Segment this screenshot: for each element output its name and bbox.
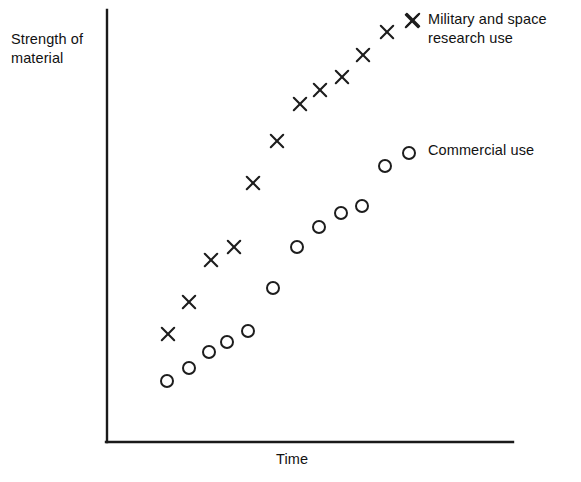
series-commercial-markers xyxy=(161,147,415,387)
data-point-o-8 xyxy=(335,207,347,219)
y-axis-label: Strength of material xyxy=(11,30,111,68)
data-point-x-7 xyxy=(314,84,326,96)
data-point-x-0 xyxy=(162,328,174,340)
data-point-x-1 xyxy=(183,296,195,308)
data-point-o-4 xyxy=(242,325,254,337)
data-point-x-4 xyxy=(247,177,259,189)
data-point-o-7 xyxy=(313,221,325,233)
data-point-x-3 xyxy=(228,241,240,253)
data-point-x-10 xyxy=(381,26,393,38)
data-point-x-5 xyxy=(271,135,283,147)
legend-label-commercial: Commercial use xyxy=(428,141,578,160)
legend-marker-group xyxy=(407,14,419,26)
data-point-x-6 xyxy=(294,98,306,110)
data-point-o-10 xyxy=(379,160,391,172)
data-point-o-2 xyxy=(203,346,215,358)
data-point-o-9 xyxy=(356,200,368,212)
data-point-x-2 xyxy=(205,254,217,266)
data-point-o-1 xyxy=(183,362,195,374)
series-military-and-space-markers xyxy=(162,15,418,340)
data-point-o-5 xyxy=(267,282,279,294)
legend-label-military: Military and space research use xyxy=(428,10,578,48)
scatter-chart-figure: Strength of material Time Military and s… xyxy=(0,0,581,482)
data-point-o-6 xyxy=(291,241,303,253)
data-point-x-9 xyxy=(357,49,369,61)
legend-marker-x-military xyxy=(407,14,419,26)
data-point-x-8 xyxy=(336,71,348,83)
data-point-o-3 xyxy=(221,336,233,348)
plot-canvas xyxy=(0,0,581,482)
axes-group xyxy=(106,10,513,442)
x-axis-label: Time xyxy=(276,450,308,469)
data-point-o-0 xyxy=(161,375,173,387)
data-point-o-11 xyxy=(403,147,415,159)
